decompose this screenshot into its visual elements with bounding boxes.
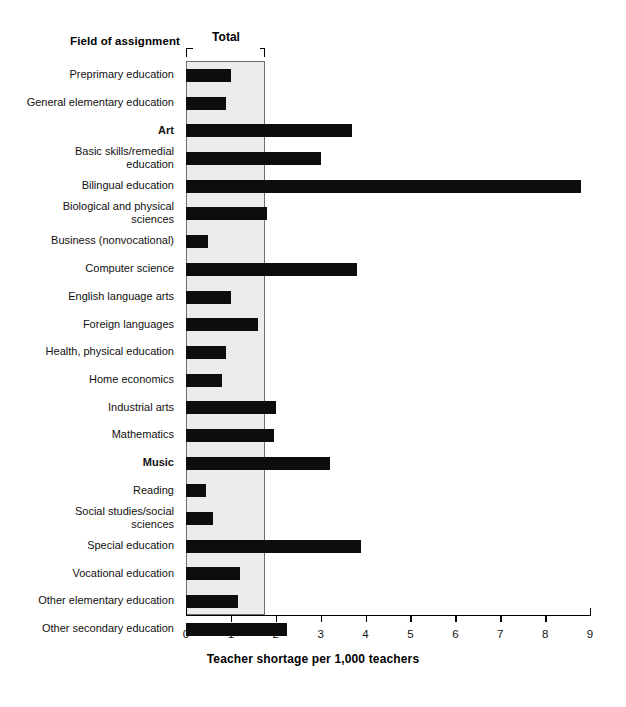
bar-row xyxy=(186,89,590,117)
category-label: Industrial arts xyxy=(108,401,174,414)
bar xyxy=(186,540,361,553)
total-bracket xyxy=(186,48,265,57)
category-label-row: Special education xyxy=(0,532,180,560)
category-label: Basic skills/remedial education xyxy=(75,145,174,171)
x-axis-tick xyxy=(545,615,546,622)
bar-row xyxy=(186,338,590,366)
bar xyxy=(186,235,208,248)
category-label-row: Preprimary education xyxy=(0,61,180,89)
x-axis-tick xyxy=(455,615,456,622)
bar xyxy=(186,97,226,110)
bar xyxy=(186,567,240,580)
total-band-label: Total xyxy=(186,30,266,44)
x-axis-tick-label: 0 xyxy=(176,628,196,640)
bar-row xyxy=(186,532,590,560)
field-of-assignment-header: Field of assignment xyxy=(70,35,180,47)
x-axis-tick xyxy=(276,615,277,622)
x-axis-tick-label: 5 xyxy=(400,628,420,640)
x-axis-tick xyxy=(231,615,232,622)
category-label: Music xyxy=(143,456,174,469)
category-label-row: Foreign languages xyxy=(0,310,180,338)
category-label: Bilingual education xyxy=(82,179,174,192)
category-label-row: English language arts xyxy=(0,283,180,311)
category-label-row: Home economics xyxy=(0,366,180,394)
bar xyxy=(186,429,274,442)
bar xyxy=(186,318,258,331)
category-label: Mathematics xyxy=(112,428,174,441)
plot-area xyxy=(186,61,590,615)
bar-row xyxy=(186,61,590,89)
category-label: Social studies/social sciences xyxy=(75,505,174,531)
bar-row xyxy=(186,310,590,338)
bar-row xyxy=(186,615,590,643)
x-axis-tick-label: 9 xyxy=(580,628,600,640)
category-label: Computer science xyxy=(85,262,174,275)
category-label: General elementary education xyxy=(27,96,174,109)
category-label-row: Music xyxy=(0,449,180,477)
category-label-row: Reading xyxy=(0,476,180,504)
bar-row xyxy=(186,559,590,587)
x-axis-line xyxy=(186,615,590,616)
bar-row xyxy=(186,449,590,477)
bar-row xyxy=(186,476,590,504)
category-label-row: Industrial arts xyxy=(0,393,180,421)
bar xyxy=(186,512,213,525)
category-label: Business (nonvocational) xyxy=(51,234,174,247)
category-label: Health, physical education xyxy=(46,345,174,358)
category-label: Foreign languages xyxy=(83,318,174,331)
category-label-row: Computer science xyxy=(0,255,180,283)
bar-row xyxy=(186,283,590,311)
category-label-row: Other secondary education xyxy=(0,615,180,643)
category-label: English language arts xyxy=(68,290,174,303)
bar xyxy=(186,484,206,497)
bar xyxy=(186,207,267,220)
category-label-row: Health, physical education xyxy=(0,338,180,366)
bar-row xyxy=(186,144,590,172)
bar-chart-figure: Field of assignment Total Preprimary edu… xyxy=(0,0,626,707)
x-axis-tick-label: 1 xyxy=(221,628,241,640)
category-label: Other elementary education xyxy=(38,594,174,607)
x-axis-tick xyxy=(321,615,322,622)
category-label-column: Preprimary educationGeneral elementary e… xyxy=(0,61,180,615)
x-axis-tick-label: 7 xyxy=(490,628,510,640)
bar-row xyxy=(186,116,590,144)
bar-row xyxy=(186,227,590,255)
category-label-row: Vocational education xyxy=(0,559,180,587)
x-axis-tick-label: 4 xyxy=(356,628,376,640)
category-label: Special education xyxy=(87,539,174,552)
bar-row xyxy=(186,172,590,200)
category-label: Reading xyxy=(133,484,174,497)
bar-row xyxy=(186,587,590,615)
category-label-row: Art xyxy=(0,116,180,144)
category-label-row: Mathematics xyxy=(0,421,180,449)
x-axis-tick xyxy=(500,615,501,622)
chart-header: Field of assignment Total xyxy=(0,30,626,60)
category-label-row: Bilingual education xyxy=(0,172,180,200)
category-label-row: Business (nonvocational) xyxy=(0,227,180,255)
bar xyxy=(186,263,357,276)
bar-row xyxy=(186,199,590,227)
bar-row xyxy=(186,504,590,532)
category-label: Preprimary education xyxy=(69,68,174,81)
category-label: Vocational education xyxy=(72,567,174,580)
x-axis-tick-label: 6 xyxy=(445,628,465,640)
bar-row xyxy=(186,255,590,283)
bar xyxy=(186,152,321,165)
bar xyxy=(186,457,330,470)
bar xyxy=(186,595,238,608)
bar-row xyxy=(186,366,590,394)
x-axis-tick xyxy=(410,615,411,622)
x-axis-title: Teacher shortage per 1,000 teachers xyxy=(0,652,626,666)
x-axis-tick xyxy=(590,608,591,616)
x-axis-tick-label: 8 xyxy=(535,628,555,640)
category-label: Home economics xyxy=(89,373,174,386)
category-label-row: General elementary education xyxy=(0,89,180,117)
bar xyxy=(186,291,231,304)
category-label-row: Social studies/social sciences xyxy=(0,504,180,532)
bar xyxy=(186,180,581,193)
category-label: Biological and physical sciences xyxy=(63,200,174,226)
bar xyxy=(186,124,352,137)
bar xyxy=(186,346,226,359)
x-axis-tick-label: 2 xyxy=(266,628,286,640)
category-label-row: Other elementary education xyxy=(0,587,180,615)
